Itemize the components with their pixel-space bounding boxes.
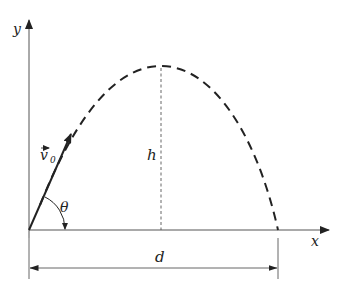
trajectory-curve — [29, 11, 278, 230]
projectile-diagram: y x h v 0 θ d — [0, 0, 343, 294]
velocity-subscript: 0 — [50, 155, 56, 165]
distance-label: d — [155, 248, 165, 266]
height-label: h — [147, 146, 157, 164]
velocity-vector — [29, 134, 71, 230]
diagram-canvas: y x h v 0 θ d — [0, 0, 343, 294]
y-axis-label: y — [12, 21, 22, 37]
distance-dimension — [29, 238, 278, 279]
velocity-label: v 0 — [40, 147, 56, 165]
x-axis-label: x — [311, 233, 319, 249]
velocity-symbol: v — [40, 147, 48, 163]
angle-label: θ — [60, 199, 69, 215]
trajectory-dashed-path — [40, 66, 278, 230]
